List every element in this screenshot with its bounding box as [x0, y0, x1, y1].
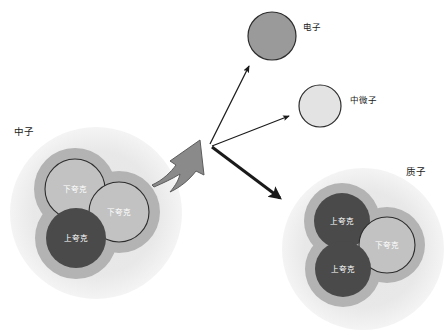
quark-label: 下夸克 — [63, 184, 87, 194]
neutron-quark-up-1: 上夸克 — [46, 208, 106, 268]
proton-group: 上夸克 下夸克 上夸克 质子 — [282, 166, 444, 330]
outgoing-arrows — [210, 66, 289, 198]
neutron-label: 中子 — [14, 126, 34, 137]
diagram-canvas: 下夸克 下夸克 上夸克 中子 上夸克 — [0, 0, 447, 336]
electron-label: 电子 — [303, 22, 321, 32]
quark-label: 上夸克 — [330, 216, 354, 226]
proton-label: 质子 — [406, 166, 426, 177]
quark-label: 下夸克 — [107, 207, 131, 217]
quark-label: 下夸克 — [375, 240, 399, 250]
neutron-group: 下夸克 下夸克 上夸克 中子 — [10, 126, 182, 299]
arrow-to-neutrino — [212, 116, 289, 146]
neutrino-group: 中微子 — [299, 85, 377, 127]
proton-quark-up-2: 上夸克 — [315, 241, 371, 297]
beta-decay-svg: 下夸克 下夸克 上夸克 中子 上夸克 — [0, 0, 447, 336]
arrow-to-proton — [212, 147, 280, 198]
quark-label: 上夸克 — [331, 264, 355, 274]
electron-circle — [248, 12, 296, 60]
neutrino-label: 中微子 — [350, 95, 377, 105]
arrow-to-electron — [210, 66, 249, 144]
quark-label: 上夸克 — [64, 233, 88, 243]
neutrino-circle — [299, 85, 341, 127]
electron-group: 电子 — [248, 12, 321, 60]
